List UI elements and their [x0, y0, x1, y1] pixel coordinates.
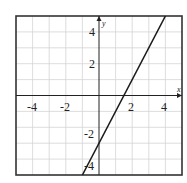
tick-label-x: 2	[128, 100, 134, 114]
tick-label-x: -2	[60, 100, 70, 114]
tick-label-y: 2	[89, 57, 95, 71]
tick-label-y: 4	[89, 25, 95, 39]
coordinate-plot: x y -4 -2 2 4 4 2 -2 -4	[0, 0, 187, 183]
axes	[16, 16, 182, 175]
tick-label-x: -4	[27, 100, 37, 114]
x-axis-label: x	[176, 85, 181, 94]
y-axis-label: y	[101, 19, 106, 28]
tick-label-y: -2	[84, 127, 94, 141]
tick-label-x: 4	[161, 100, 167, 114]
